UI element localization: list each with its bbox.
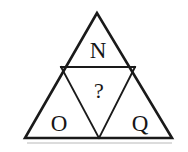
bottom-left-cell-label: O	[51, 111, 68, 136]
outer-triangle	[25, 13, 172, 138]
triangle-diagram-canvas: N ? O Q	[0, 0, 188, 152]
triangle-puzzle-figure: N ? O Q	[0, 0, 188, 152]
center-cell-label-unknown: ?	[94, 78, 104, 103]
right-diagonal-line	[99, 67, 135, 138]
top-cell-label: N	[90, 38, 107, 63]
bottom-right-cell-label: Q	[132, 111, 149, 136]
